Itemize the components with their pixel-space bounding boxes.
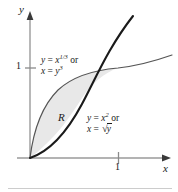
bottom-divider bbox=[8, 188, 172, 189]
parabola-or: or bbox=[109, 113, 119, 123]
parabola-equation-line-1: y = x2 or bbox=[87, 112, 119, 123]
parabola-equals-2: = bbox=[91, 124, 101, 134]
radicand: y bbox=[107, 123, 112, 134]
curve-label-parabola: y = x2 or x = √y bbox=[87, 112, 119, 135]
cube-root-exponent-2: 3 bbox=[60, 64, 63, 71]
square-root-expression: √y bbox=[101, 123, 112, 134]
parabola-equation-line-2: x = √y bbox=[87, 123, 119, 134]
y-axis-tick-label-1: 1 bbox=[16, 61, 21, 72]
parabola-equals: = bbox=[91, 113, 101, 123]
cube-root-equals: = bbox=[45, 55, 55, 65]
cube-root-equals-2: = bbox=[45, 67, 55, 77]
y-axis-label: y bbox=[19, 4, 24, 16]
cube-root-exponent: 1/3 bbox=[60, 53, 68, 60]
x-axis-label: x bbox=[163, 163, 168, 175]
math-figure: y x 1 1 R y = x1/3 or x = y3 y = x2 or x… bbox=[0, 0, 178, 192]
y-axis-arrowhead bbox=[27, 11, 34, 20]
plot-canvas bbox=[0, 0, 178, 192]
x-axis-tick-label-1: 1 bbox=[115, 162, 120, 173]
region-label-R: R bbox=[58, 112, 65, 124]
cube-root-equation-line-2: x = y3 bbox=[41, 65, 78, 76]
cube-root-or: or bbox=[68, 55, 78, 65]
curve-label-cube-root: y = x1/3 or x = y3 bbox=[41, 54, 78, 77]
x-axis-arrowhead bbox=[162, 155, 171, 162]
